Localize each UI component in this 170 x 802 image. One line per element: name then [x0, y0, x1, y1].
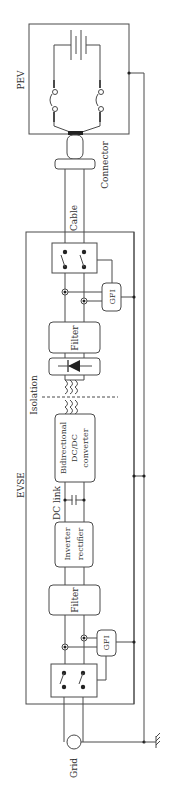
grid-label: Grid — [69, 758, 79, 778]
svg-text:Inverter: Inverter — [63, 527, 72, 560]
grid-source-icon — [67, 735, 81, 749]
inlet-icon — [68, 131, 83, 135]
svg-text:GFI: GFI — [102, 635, 111, 650]
svg-text:GFI: GFI — [108, 289, 117, 304]
transformer-icon — [42, 380, 118, 414]
inverter-rectifier — [55, 522, 93, 567]
pev-box — [29, 24, 129, 134]
earth-ground-icon — [144, 733, 160, 748]
evse-pev-diagram: PEV Connector Cable — [0, 0, 170, 802]
svg-text:rectifier: rectifier — [76, 527, 85, 560]
connector-body-icon — [55, 159, 95, 169]
contactor-top — [52, 243, 97, 273]
cable-label: Cable — [69, 205, 79, 231]
svg-text:Bidirectional: Bidirectional — [59, 421, 68, 474]
svg-text:Filter: Filter — [70, 325, 80, 351]
svg-text:converter: converter — [81, 428, 90, 467]
dc-link-label: DC link — [52, 485, 62, 520]
capacitor-icon — [63, 494, 85, 506]
pev-label: PEV — [16, 70, 26, 90]
connector-plug-icon — [67, 135, 83, 159]
contactor-bottom — [51, 664, 97, 697]
connector-label: Connector — [100, 141, 110, 189]
evse-label: EVSE — [16, 472, 26, 498]
svg-text:DC/DC: DC/DC — [70, 434, 79, 462]
isolation-label: Isolation — [29, 375, 39, 415]
svg-text:Filter: Filter — [70, 587, 80, 613]
